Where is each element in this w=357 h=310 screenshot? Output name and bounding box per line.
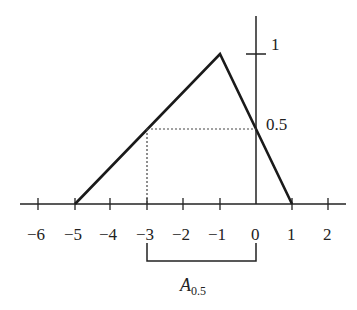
svg-text:−5: −5 [64,225,82,244]
svg-text:−1: −1 [208,225,226,244]
alpha-cut-bracket [147,243,256,261]
svg-text:−3: −3 [136,225,154,244]
alpha-cut-diagram: 1 0.5 −6 −5 −4 −3 −2 −1 0 1 2 A0.5 [0,0,357,310]
svg-text:0: 0 [251,225,260,244]
x-tick-labels: −6 −5 −4 −3 −2 −1 0 1 2 [27,225,332,244]
svg-text:1: 1 [287,225,296,244]
svg-text:−4: −4 [99,225,118,244]
svg-text:−2: −2 [172,225,190,244]
svg-text:−6: −6 [27,225,45,244]
y-label-half: 0.5 [266,115,287,134]
svg-text:2: 2 [323,225,332,244]
alpha-cut-label: A0.5 [179,275,206,298]
y-label-1: 1 [271,35,280,54]
